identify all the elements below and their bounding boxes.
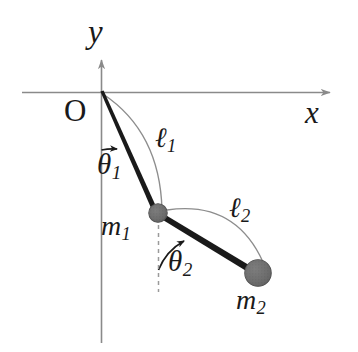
theta-2-label: θ2 xyxy=(168,247,192,279)
theta-2-symbol: θ xyxy=(168,245,182,277)
theta-1-symbol: θ xyxy=(97,148,111,180)
figure-canvas xyxy=(0,0,358,352)
rod-2-length-label: ℓ2 xyxy=(229,194,250,226)
mass-2-symbol: m xyxy=(236,284,256,315)
mass-1-bob-shade xyxy=(149,204,167,222)
x-axis-label: x xyxy=(305,97,319,128)
ell-glyph-2: ℓ xyxy=(229,191,241,224)
origin-label: O xyxy=(64,95,86,126)
y-axis-label: y xyxy=(88,16,103,49)
theta-1-label: θ1 xyxy=(97,150,121,182)
ell-glyph-1: ℓ xyxy=(155,121,167,154)
mass-1-symbol: m xyxy=(101,210,121,241)
theta-2-subscript: 2 xyxy=(183,259,193,280)
rod-1-length-subscript: 1 xyxy=(167,136,176,156)
mass-2-bob-shade xyxy=(245,260,271,286)
mass-2-subscript: 2 xyxy=(257,298,266,318)
theta-1-subscript: 1 xyxy=(112,162,122,183)
mass-1-label: m1 xyxy=(101,212,131,244)
rod-2-length-subscript: 2 xyxy=(241,206,250,226)
double-pendulum-figure: y x O ℓ1 ℓ2 θ1 θ2 m1 m2 xyxy=(0,0,358,352)
rod-1-length-label: ℓ1 xyxy=(155,124,176,156)
mass-1-subscript: 1 xyxy=(122,224,131,244)
mass-2-label: m2 xyxy=(236,286,266,318)
